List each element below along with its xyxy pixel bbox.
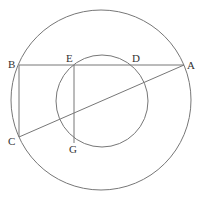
geometry-diagram: B E D A C G (0, 0, 200, 202)
point-label-A: A (187, 59, 195, 71)
point-label-C: C (8, 135, 15, 147)
segment-CA (19, 65, 184, 137)
point-label-B: B (8, 58, 15, 70)
outer-circle (11, 10, 191, 190)
point-label-G: G (69, 143, 77, 155)
point-label-D: D (132, 52, 140, 64)
point-label-E: E (66, 52, 73, 64)
diagram-svg: B E D A C G (0, 0, 200, 202)
